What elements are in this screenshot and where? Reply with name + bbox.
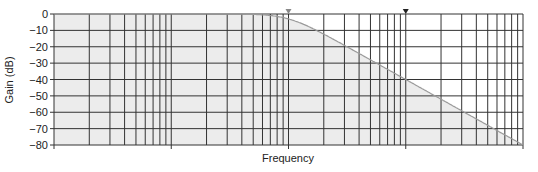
y-axis-label: Gain (dB) — [3, 56, 15, 103]
y-tick-label: 0 — [42, 8, 48, 20]
triangle-marker-icon — [286, 9, 292, 14]
y-tick-label: −10 — [29, 24, 48, 36]
y-axis-ticks: 0−10−20−30−40−50−60−70−80 — [29, 8, 48, 151]
bode-magnitude-chart: 0−10−20−30−40−50−60−70−80 Gain (dB) Freq… — [0, 0, 538, 172]
y-tick-label: −40 — [29, 74, 48, 86]
y-tick-label: −50 — [29, 90, 48, 102]
y-tick-label: −30 — [29, 57, 48, 69]
frequency-markers — [286, 9, 409, 14]
triangle-marker-icon — [403, 9, 409, 14]
y-tick-label: −20 — [29, 41, 48, 53]
y-tick-label: −80 — [29, 139, 48, 151]
y-tick-label: −60 — [29, 106, 48, 118]
y-tick-label: −70 — [29, 123, 48, 135]
x-axis-label: Frequency — [262, 152, 314, 164]
